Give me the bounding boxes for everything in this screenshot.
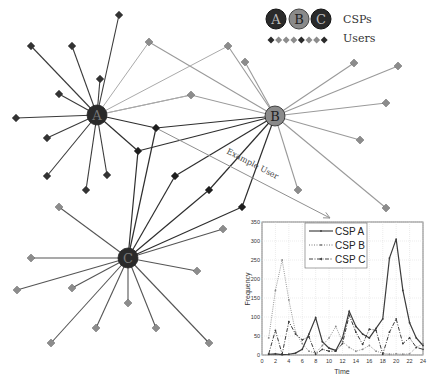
user-node-icon: [193, 267, 201, 275]
data-point: [315, 353, 317, 355]
user-node-icon: [96, 75, 104, 83]
chart-x-axis-label: Time: [334, 368, 349, 375]
data-point: [348, 314, 350, 316]
data-point: [275, 353, 277, 355]
edge-b: [149, 42, 275, 116]
data-point: [402, 343, 404, 345]
data-point: [328, 347, 330, 349]
data-point: [295, 333, 297, 335]
x-tick-label: 24: [420, 358, 426, 364]
edge-c: [51, 258, 128, 343]
user-node-icon: [55, 203, 63, 211]
edge-a: [72, 46, 97, 115]
data-point: [301, 348, 303, 350]
legend-users-text: Users: [343, 32, 376, 45]
data-point: [375, 328, 377, 330]
data-point: [348, 310, 350, 312]
user-node-icon: [115, 11, 123, 19]
data-point: [321, 341, 323, 343]
example-user-label: Example User: [225, 147, 280, 181]
data-point: [422, 343, 424, 345]
user-node-icon: [350, 59, 358, 67]
user-node-icon: [124, 299, 132, 307]
x-tick-label: 8: [314, 358, 317, 364]
user-node-icon: [12, 114, 20, 122]
edge-c: [59, 207, 128, 258]
legend-csp-c-letter: C: [316, 12, 326, 27]
edge-a: [31, 46, 97, 115]
data-point: [301, 339, 303, 341]
shared-user-node-icon: [152, 124, 160, 132]
x-tick-label: 20: [393, 358, 399, 364]
data-point: [395, 353, 397, 355]
legend-csp-a-letter: A: [270, 12, 281, 27]
data-point: [288, 299, 290, 301]
user-node-icon: [82, 186, 90, 194]
data-point: [415, 337, 417, 339]
data-point: [368, 337, 370, 339]
data-point: [288, 353, 290, 355]
data-point: [395, 318, 397, 320]
user-node-icon: [394, 62, 402, 70]
data-point: [268, 337, 270, 339]
data-point: [342, 337, 344, 339]
data-point: [389, 353, 391, 355]
user-node-icon: [187, 91, 195, 99]
csp-b-label: B: [270, 109, 280, 124]
user-node-icon: [103, 171, 111, 179]
data-point: [348, 347, 350, 349]
legend-diamond-icon: [290, 37, 297, 44]
shared-user-node-icon: [171, 172, 179, 180]
y-tick-label: 150: [251, 295, 260, 301]
data-point: [409, 322, 411, 324]
x-tick-label: 18: [380, 358, 386, 364]
data-point: [295, 352, 297, 354]
edge-c: [128, 258, 156, 328]
data-point: [409, 353, 411, 355]
data-point: [301, 343, 303, 345]
user-node-icon: [55, 90, 63, 98]
chart-legend-csp-b: CSP B: [335, 240, 365, 251]
legend-diamond-icon: [321, 37, 328, 44]
y-tick-label: 100: [251, 314, 260, 320]
data-point: [402, 353, 404, 355]
data-point: [315, 317, 317, 319]
y-tick-label: 0: [257, 352, 260, 358]
data-point: [321, 345, 323, 347]
legend-marker-csp-b: [320, 244, 322, 246]
data-point: [355, 331, 357, 333]
shared-user-node-icon: [238, 203, 246, 211]
edge-b: [275, 116, 386, 208]
data-point: [335, 326, 337, 328]
y-tick-label: 300: [251, 238, 260, 244]
y-tick-label: 350: [251, 219, 260, 225]
data-point: [409, 337, 411, 339]
legend-csp-b-letter: B: [294, 12, 304, 27]
x-tick-label: 16: [366, 358, 372, 364]
data-point: [362, 333, 364, 335]
chart-legend-csp-a: CSP A: [335, 226, 365, 237]
data-point: [389, 257, 391, 259]
edge-c: [128, 207, 242, 258]
user-node-icon: [145, 38, 153, 46]
edge-c: [96, 258, 128, 328]
data-point: [275, 329, 277, 331]
data-point: [355, 326, 357, 328]
user-node-icon: [241, 58, 249, 66]
user-node-icon: [382, 99, 390, 107]
user-node-icon: [224, 42, 232, 50]
data-point: [368, 345, 370, 347]
x-tick-label: 14: [353, 358, 359, 364]
data-point: [342, 343, 344, 345]
data-point: [389, 331, 391, 333]
edge-a: [97, 46, 228, 115]
x-tick-label: 6: [301, 358, 304, 364]
legend-diamond-icon: [306, 37, 313, 44]
legend-user-diamonds-icon: [268, 37, 328, 44]
data-point: [308, 350, 310, 352]
data-point: [422, 345, 424, 347]
user-node-icon: [294, 186, 302, 194]
legend-diamond-icon: [283, 37, 290, 44]
user-node-icon: [152, 324, 160, 332]
data-point: [395, 238, 397, 240]
